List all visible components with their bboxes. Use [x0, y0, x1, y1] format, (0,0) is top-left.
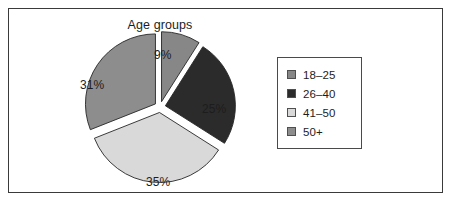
legend-swatch-icon-18-25 — [287, 70, 296, 79]
legend-label-26-40: 26–40 — [303, 88, 335, 100]
legend-swatch-icon-26-40 — [287, 89, 296, 98]
slice-value-label-18-25: 9% — [154, 48, 172, 62]
legend-swatch-icon-50-plus — [287, 127, 296, 136]
legend-item-41-50: 41–50 — [287, 103, 361, 122]
legend-item-18-25: 18–25 — [287, 65, 361, 84]
slice-value-label-50-plus: 31% — [80, 78, 104, 92]
legend-item-50-plus: 50+ — [287, 122, 361, 141]
pie-graphic: 9% 25% 35% 31% — [60, 28, 260, 186]
chart-legend: 18–25 26–40 41–50 50+ — [277, 57, 362, 149]
legend-swatch-icon-41-50 — [287, 108, 296, 117]
pie-chart-figure: Age groups 9% 25% 35% 31% 18–25 26–40 41… — [0, 0, 451, 202]
slice-value-label-26-40: 25% — [202, 102, 226, 116]
legend-label-41-50: 41–50 — [303, 107, 335, 119]
legend-label-50-plus: 50+ — [303, 126, 323, 138]
legend-label-18-25: 18–25 — [303, 69, 335, 81]
chart-plot-area: Age groups 9% 25% 35% 31% — [60, 14, 260, 189]
slice-value-label-41-50: 35% — [146, 175, 170, 189]
legend-item-26-40: 26–40 — [287, 84, 361, 103]
